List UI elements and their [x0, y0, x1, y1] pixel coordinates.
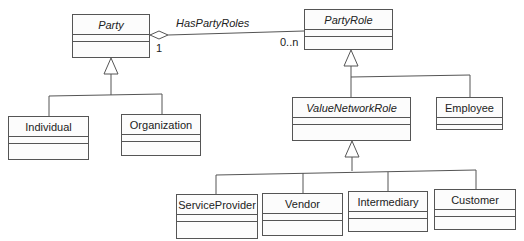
class-value-network-role[interactable]: ValueNetworkRole	[292, 97, 411, 141]
class-name: Individual	[9, 117, 88, 137]
class-employee[interactable]: Employee	[436, 97, 503, 130]
attributes-compartment	[305, 30, 392, 37]
operations-compartment	[122, 142, 200, 155]
operations-compartment	[293, 125, 410, 140]
class-service-provider[interactable]: ServiceProvider	[176, 194, 258, 239]
generalization-arrow-icon	[104, 58, 118, 74]
generalization-arrow-icon	[345, 141, 359, 157]
operations-compartment	[437, 125, 502, 129]
association-line	[168, 31, 304, 35]
class-organization[interactable]: Organization	[121, 114, 201, 156]
attributes-compartment	[349, 212, 427, 219]
association-name-label: HasPartyRoles	[176, 17, 249, 29]
operations-compartment	[305, 37, 392, 49]
attributes-compartment	[177, 215, 257, 222]
class-name: Party	[73, 15, 149, 35]
attributes-compartment	[293, 118, 410, 125]
operations-compartment	[177, 222, 257, 238]
class-name: PartyRole	[305, 10, 392, 30]
class-name: ServiceProvider	[177, 195, 257, 215]
class-name: Organization	[122, 115, 200, 135]
attributes-compartment	[73, 35, 149, 42]
multiplicity-party-label: 1	[156, 42, 162, 54]
attributes-compartment	[263, 214, 342, 221]
operations-compartment	[9, 144, 88, 159]
class-name: ValueNetworkRole	[293, 98, 410, 118]
class-party[interactable]: Party	[72, 14, 150, 58]
class-vendor[interactable]: Vendor	[262, 193, 343, 236]
class-name: Vendor	[263, 194, 342, 214]
attributes-compartment	[435, 210, 515, 217]
class-customer[interactable]: Customer	[434, 189, 516, 230]
operations-compartment	[435, 217, 515, 229]
class-name: Intermediary	[349, 192, 427, 212]
class-intermediary[interactable]: Intermediary	[348, 191, 428, 232]
generalization-arrow-icon	[344, 50, 358, 66]
operations-compartment	[349, 219, 427, 231]
class-individual[interactable]: Individual	[8, 116, 89, 160]
attributes-compartment	[437, 118, 502, 125]
class-name: Employee	[437, 98, 502, 118]
attributes-compartment	[122, 135, 200, 142]
multiplicity-role-label: 0..n	[280, 36, 298, 48]
aggregation-diamond-icon	[150, 31, 168, 39]
class-party-role[interactable]: PartyRole	[304, 9, 393, 50]
operations-compartment	[263, 221, 342, 235]
class-name: Customer	[435, 190, 515, 210]
attributes-compartment	[9, 137, 88, 144]
operations-compartment	[73, 42, 149, 57]
